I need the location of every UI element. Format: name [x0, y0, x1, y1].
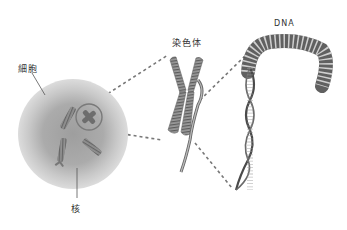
- cell-label: 細胞: [18, 62, 38, 75]
- diagram-canvas: [0, 0, 347, 230]
- chromosome-illustration: [168, 57, 203, 172]
- dna-illustration: [236, 41, 326, 190]
- cell: [18, 73, 128, 198]
- nucleus-label: 核: [71, 202, 81, 215]
- diagram-stage: 細胞 核 染色体 DNA: [0, 0, 347, 230]
- dna-label: DNA: [274, 19, 295, 28]
- zoom-lines-chromosome-to-dna: [195, 55, 246, 188]
- chromosome-label: 染色体: [172, 36, 202, 49]
